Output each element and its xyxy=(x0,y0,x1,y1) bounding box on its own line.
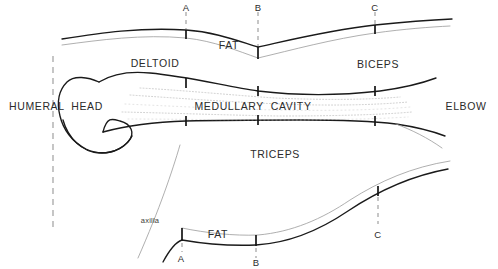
marker-label-bottom-a: A xyxy=(178,253,185,264)
medullary-stipple-1 xyxy=(140,88,400,99)
label-humeral-head: HUMERAL HEAD xyxy=(9,100,103,112)
label-triceps: TRICEPS xyxy=(250,148,300,160)
anatomy-svg-canvas: A B C A B C FAT DELTOID BICEPS MEDULLARY… xyxy=(0,0,498,269)
label-fat-lower: FAT xyxy=(208,228,228,240)
label-fat-upper: FAT xyxy=(219,39,239,51)
marker-label-top-b: B xyxy=(255,2,262,13)
label-deltoid: DELTOID xyxy=(131,57,180,69)
medullary-stipple-4 xyxy=(122,112,412,116)
axilla-line xyxy=(138,145,180,258)
fat-muscle-boundary-lower xyxy=(182,161,450,235)
marker-label-bottom-b: B xyxy=(253,257,260,268)
bone-lower-cortex xyxy=(103,120,445,136)
label-axilla: axilla xyxy=(141,216,160,225)
marker-label-bottom-c: C xyxy=(374,229,381,240)
marker-label-top-c: C xyxy=(371,2,378,13)
label-elbow: ELBOW xyxy=(446,100,487,112)
bone-upper-cortex xyxy=(99,72,436,94)
anatomy-diagram: A B C A B C FAT DELTOID BICEPS MEDULLARY… xyxy=(0,0,498,269)
label-biceps: BICEPS xyxy=(357,58,399,70)
label-medullary-cavity: MEDULLARY CAVITY xyxy=(195,100,312,112)
humeral-head-outline xyxy=(58,77,131,152)
marker-label-top-a: A xyxy=(183,2,190,13)
skin-surface-line xyxy=(62,19,452,47)
